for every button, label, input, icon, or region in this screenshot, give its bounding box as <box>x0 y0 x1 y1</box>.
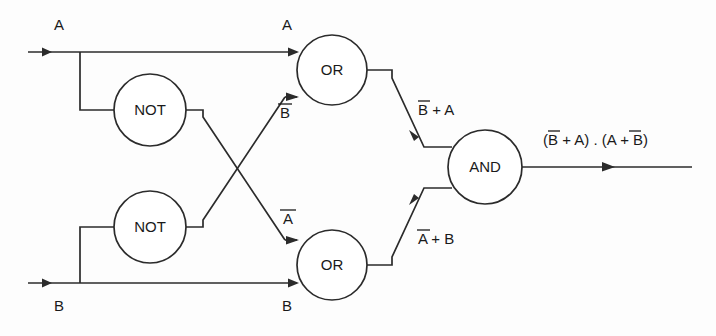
or-bottom-label: OR <box>321 256 344 273</box>
input-b-to-or-arrowhead <box>288 279 299 288</box>
label-not-b-output: B <box>278 104 292 121</box>
label-input-a-at-gate: A <box>282 16 292 33</box>
final-out-p2: B <box>548 131 558 148</box>
or-top-out-post: + A <box>428 101 454 118</box>
label-not-b-output-text: B <box>280 104 290 121</box>
final-output-wire-group <box>522 162 692 172</box>
or-top-label: OR <box>321 61 344 78</box>
label-input-a-left: A <box>54 16 64 33</box>
gate-not-top[interactable]: NOT <box>114 74 186 146</box>
input-b-start-arrowhead <box>42 279 52 288</box>
label-not-a-output-text: A <box>283 210 293 227</box>
final-output-arrowhead <box>602 162 615 172</box>
label-final-output-text: (B + A) . (A + B) <box>543 131 648 148</box>
input-a-to-or-arrowhead <box>288 48 299 57</box>
gate-or-top[interactable]: OR <box>297 35 367 105</box>
gate-and[interactable]: AND <box>448 130 522 204</box>
label-or-bottom-output: A + B <box>417 230 454 247</box>
and-label: AND <box>469 158 501 175</box>
gate-or-bottom[interactable]: OR <box>297 230 367 300</box>
or-bottom-out-post: + B <box>427 230 454 247</box>
logic-circuit-diagram: NOT NOT OR OR AND A B A B B <box>0 0 716 336</box>
gate-not-bottom[interactable]: NOT <box>114 191 186 263</box>
label-or-top-output-text: B + A <box>418 101 454 118</box>
not-top-label: NOT <box>134 101 166 118</box>
final-out-p5: + B) <box>616 131 648 148</box>
label-or-bottom-output-text: A + B <box>418 230 454 247</box>
not-bottom-label: NOT <box>134 218 166 235</box>
label-not-a-output: A <box>280 210 296 227</box>
label-final-output: (B + A) . (A + B) <box>543 131 648 148</box>
label-or-top-output: B + A <box>418 101 454 118</box>
or-top-out-pre: B <box>418 101 428 118</box>
label-input-b-left: B <box>54 297 64 314</box>
not-a-output-wire <box>186 110 285 240</box>
input-b-branch-to-not <box>80 227 114 283</box>
input-a-branch-to-not <box>80 52 114 110</box>
circuit-svg: NOT NOT OR OR AND A B A B B <box>0 0 716 336</box>
or-bottom-output-wire <box>367 188 452 265</box>
input-a-start-arrowhead <box>42 48 52 57</box>
label-input-b-at-gate: B <box>282 297 292 314</box>
final-out-p3: + A) . ( <box>558 131 607 148</box>
not-b-output-wire <box>186 97 285 227</box>
